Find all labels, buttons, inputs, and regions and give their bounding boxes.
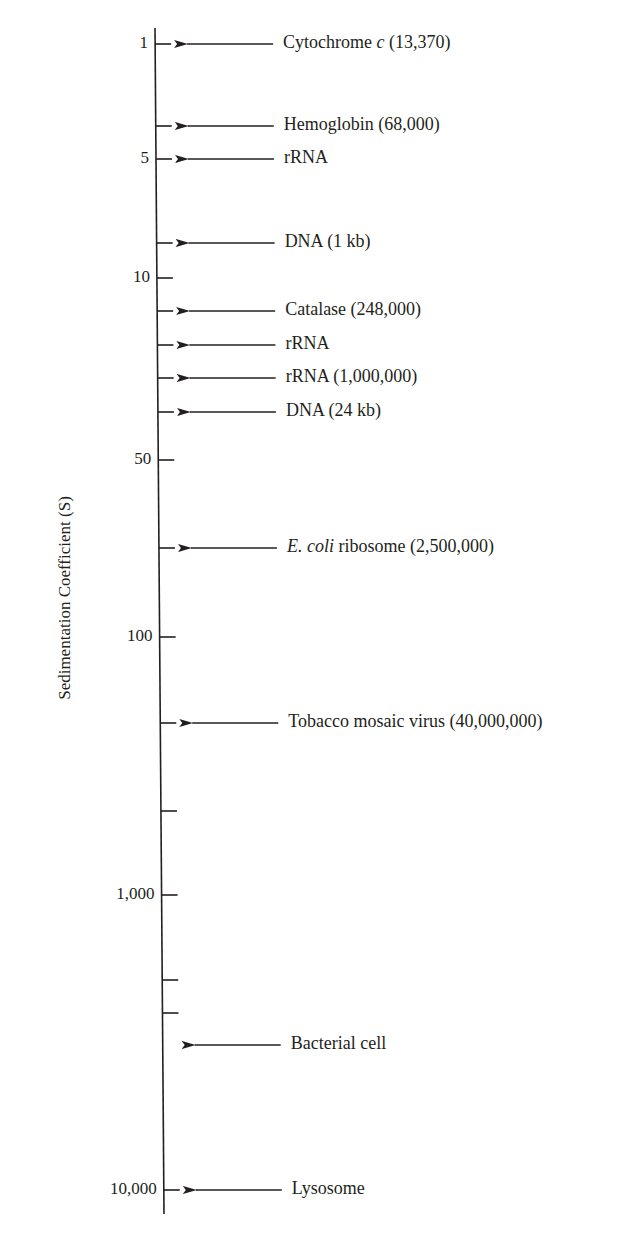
axis-title: Sedimentation Coefficient (S) — [55, 496, 74, 700]
entry: rRNA (1,000,000) — [190, 366, 417, 387]
tick-label: 1,000 — [116, 884, 154, 903]
entry-label: rRNA (1,000,000) — [286, 366, 418, 387]
tick-label: 10,000 — [110, 1179, 157, 1198]
entry-label-part: rRNA — [285, 333, 329, 353]
axis-tick: 100 — [127, 626, 176, 645]
entry-label-part: rRNA — [284, 147, 328, 167]
entry-label: Bacterial cell — [291, 1033, 386, 1053]
entry-label-part: Cytochrome — [283, 32, 376, 52]
entry-label: Tobacco mosaic virus (40,000,000) — [288, 711, 542, 732]
entry-label: DNA (24 kb) — [286, 400, 381, 421]
entry-label-part: DNA (1 kb) — [285, 231, 371, 252]
entry-label-part: Hemoglobin (68,000) — [284, 114, 440, 135]
entry: E. coli ribosome (2,500,000) — [191, 536, 494, 557]
annotated-entries: Cytochrome c (13,370)Hemoglobin (68,000)… — [187, 32, 542, 1198]
tick-label: 5 — [140, 148, 149, 167]
entry-label-part: E. coli — [286, 536, 334, 556]
entry-label: rRNA — [285, 333, 329, 353]
entry: Lysosome — [196, 1178, 365, 1198]
tick-label: 50 — [134, 449, 151, 468]
axis-tick: 10 — [133, 267, 173, 286]
entry: DNA (24 kb) — [190, 400, 381, 421]
entry-label: rRNA — [284, 147, 328, 167]
entry: Bacterial cell — [195, 1033, 386, 1053]
entry-label-part: Bacterial cell — [291, 1033, 386, 1053]
entry-label: Lysosome — [292, 1178, 365, 1198]
entry-label: Cytochrome c (13,370) — [283, 32, 450, 53]
entry-label: DNA (1 kb) — [285, 231, 371, 252]
entry-label: E. coli ribosome (2,500,000) — [286, 536, 494, 557]
entry: DNA (1 kb) — [189, 231, 371, 252]
entry: rRNA — [188, 147, 328, 167]
entry: Tobacco mosaic virus (40,000,000) — [192, 711, 542, 732]
tick-label: 10 — [133, 267, 150, 286]
axis-ticks: 1510501001,00010,000 — [110, 33, 180, 1198]
axis-tick: 50 — [134, 449, 174, 468]
axis-line — [155, 28, 164, 1214]
tick-label: 100 — [127, 626, 153, 645]
entry: Catalase (248,000) — [189, 299, 421, 320]
entry-label-part: rRNA (1,000,000) — [286, 366, 418, 387]
entry-label: Hemoglobin (68,000) — [284, 114, 440, 135]
entry-label-part: (13,370) — [385, 32, 451, 53]
axis-title-group: Sedimentation Coefficient (S) — [55, 496, 74, 700]
entry-label-part: c — [377, 32, 385, 52]
axis-tick: 10,000 — [110, 1179, 180, 1198]
entry-label-part: DNA (24 kb) — [286, 400, 381, 421]
tick-label: 1 — [140, 33, 149, 52]
entry-label-part: Catalase (248,000) — [285, 299, 421, 320]
entry: rRNA — [189, 333, 329, 353]
entry: Hemoglobin (68,000) — [188, 114, 440, 135]
entry-label-part: ribosome (2,500,000) — [334, 536, 494, 557]
entry: Cytochrome c (13,370) — [187, 32, 450, 53]
entry-label: Catalase (248,000) — [285, 299, 421, 320]
axis-tick: 1,000 — [116, 884, 177, 903]
entry-label-part: Tobacco mosaic virus (40,000,000) — [288, 711, 542, 732]
sedimentation-scale-figure: Sedimentation Coefficient (S) 1510501001… — [0, 0, 640, 1259]
entry-label-part: Lysosome — [292, 1178, 365, 1198]
